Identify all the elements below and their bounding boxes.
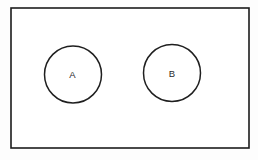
- set-b-label: B: [169, 68, 176, 79]
- set-a-label: A: [69, 69, 76, 80]
- diagram-canvas: A B: [0, 0, 258, 160]
- venn-diagram: A B: [0, 0, 258, 160]
